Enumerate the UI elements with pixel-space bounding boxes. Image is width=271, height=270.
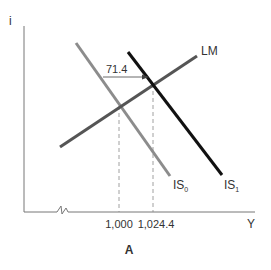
is1-label: IS1: [224, 178, 239, 193]
x-axis-label: Y: [247, 217, 255, 231]
is-lm-chart: i LM 71.4 IS0 IS1 1,000 1,024.4 Y A: [0, 0, 271, 270]
y-axis-label: i: [9, 14, 12, 28]
shift-arrow: [103, 75, 149, 80]
x-tick-1024: 1,024.4: [138, 218, 175, 230]
shift-label: 71.4: [106, 63, 127, 75]
x-tick-1000: 1,000: [105, 218, 133, 230]
is0-label: IS0: [173, 178, 188, 193]
panel-label: A: [125, 243, 134, 257]
axes: [24, 26, 255, 214]
lm-label: LM: [201, 44, 218, 58]
x-axis: [24, 206, 255, 214]
lm-curve: [60, 56, 197, 147]
